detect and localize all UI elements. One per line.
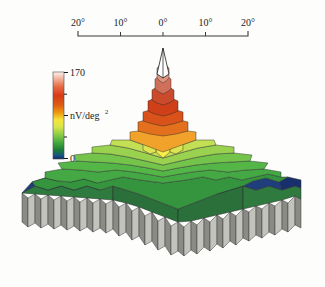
colorbar-gradient <box>53 72 64 159</box>
axis-tick-label-right-10: 10° <box>199 17 213 28</box>
colorbar-max-label: 170 <box>70 67 85 78</box>
axis-tick-label-right-20: 20° <box>241 17 255 28</box>
colorbar-unit-label: nV/deg <box>70 110 99 121</box>
axis-tick-label-left-20: 20° <box>71 17 85 28</box>
axis-tick-label-left-10: 10° <box>114 17 128 28</box>
figure-panel: 20° 10° 0° 10° 20° 170 nV/deg 2 0 <box>0 0 325 287</box>
surface-plot-figure: 20° 10° 0° 10° 20° 170 nV/deg 2 0 <box>0 0 325 287</box>
axis-tick-label-center-0: 0° <box>159 17 168 28</box>
colorbar-unit-exponent: 2 <box>105 108 108 115</box>
